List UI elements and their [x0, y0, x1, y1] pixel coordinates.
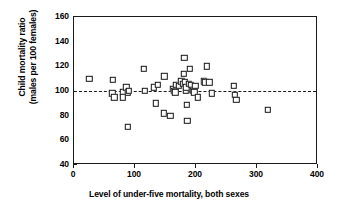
- data-point: [160, 110, 166, 116]
- y-tick-label: 80: [26, 110, 69, 119]
- data-point: [231, 83, 237, 89]
- data-point: [140, 66, 146, 72]
- data-point: [142, 88, 148, 94]
- x-tick-label: 200: [175, 170, 215, 179]
- data-point: [126, 88, 132, 94]
- x-tick-mark: [317, 164, 318, 168]
- data-point: [233, 96, 239, 102]
- data-point: [111, 94, 117, 100]
- data-point: [167, 112, 173, 118]
- data-point: [153, 100, 159, 106]
- plot-area: [74, 17, 316, 163]
- data-point: [206, 79, 212, 85]
- data-point: [204, 63, 210, 69]
- data-point: [86, 75, 92, 81]
- x-tick-mark: [134, 164, 135, 168]
- data-point: [265, 106, 271, 112]
- data-point: [209, 90, 215, 96]
- data-point: [192, 83, 198, 89]
- y-tick-label: 160: [26, 12, 69, 21]
- data-point: [124, 124, 130, 130]
- data-point: [195, 94, 201, 100]
- data-point: [184, 101, 190, 107]
- x-tick-mark: [256, 164, 257, 168]
- y-tick-label: 40: [26, 160, 69, 169]
- data-point: [154, 82, 160, 88]
- data-point: [184, 117, 190, 123]
- x-tick-label: 0: [53, 170, 93, 179]
- data-point: [161, 73, 167, 79]
- y-tick-label: 140: [26, 36, 69, 45]
- x-tick-mark: [195, 164, 196, 168]
- y-tick-label: 60: [26, 135, 69, 144]
- x-axis-title: Level of under-five mortality, both sexe…: [0, 189, 338, 199]
- x-tick-mark: [73, 164, 74, 168]
- data-point: [187, 66, 193, 72]
- plot-frame: [73, 16, 317, 164]
- data-point: [181, 54, 187, 60]
- x-tick-label: 100: [114, 170, 154, 179]
- x-tick-label: 400: [297, 170, 337, 179]
- chart-figure: Child mortality ratio (males per 100 fem…: [0, 0, 338, 211]
- y-tick-label: 120: [26, 61, 69, 70]
- x-tick-label: 300: [236, 170, 276, 179]
- data-point: [172, 89, 178, 95]
- data-point: [110, 77, 116, 83]
- y-tick-label: 100: [26, 86, 69, 95]
